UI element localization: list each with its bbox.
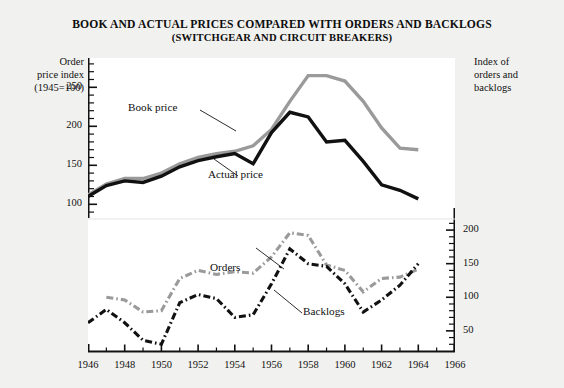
- series-label-book-price: Book price: [128, 101, 177, 113]
- leader-book-price: [200, 110, 236, 131]
- x-tick-label-1958: 1958: [288, 359, 328, 370]
- x-tick-label-1960: 1960: [325, 359, 365, 370]
- x-tick-label-1954: 1954: [215, 359, 255, 370]
- right-axis-caption-line-1: Index of: [474, 55, 562, 68]
- x-tick-label-1966: 1966: [435, 359, 475, 370]
- chart-title-block: BOOK AND ACTUAL PRICES COMPARED WITH ORD…: [0, 18, 564, 44]
- x-tick-label-1962: 1962: [362, 359, 402, 370]
- x-tick-label-1950: 1950: [141, 359, 181, 370]
- y-tick-label-left-200: 200: [48, 119, 82, 130]
- series-line-actual-price: [88, 112, 418, 199]
- series-label-backlogs: Backlogs: [303, 305, 345, 317]
- x-tick-label-1946: 1946: [68, 359, 108, 370]
- left-axis-caption-line-1: Order: [6, 55, 84, 68]
- right-axis-caption: Index of orders and backlogs: [474, 55, 562, 94]
- chart-title-line-2: (SWITCHGEAR AND CIRCUIT BREAKERS): [0, 32, 564, 45]
- left-axis-caption-line-2: price index: [6, 68, 84, 81]
- y-tick-label-right-150: 150: [463, 257, 497, 268]
- y-tick-label-left-100: 100: [48, 197, 82, 208]
- y-tick-label-left-150: 150: [48, 158, 82, 169]
- y-tick-label-right-50: 50: [463, 324, 497, 335]
- leader-backlogs: [274, 290, 302, 313]
- x-tick-label-1956: 1956: [252, 359, 292, 370]
- x-tick-label-1952: 1952: [178, 359, 218, 370]
- y-tick-label-right-200: 200: [463, 223, 497, 234]
- series-line-backlogs: [88, 249, 418, 344]
- series-label-actual-price: Actual price: [208, 168, 263, 180]
- series-label-orders: Orders: [210, 261, 240, 273]
- x-tick-label-1948: 1948: [105, 359, 145, 370]
- right-axis-caption-line-3: backlogs: [474, 81, 562, 94]
- x-tick-label-1964: 1964: [398, 359, 438, 370]
- y-tick-label-right-100: 100: [463, 290, 497, 301]
- chart-title-line-1: BOOK AND ACTUAL PRICES COMPARED WITH ORD…: [0, 18, 564, 32]
- chart-figure: BOOK AND ACTUAL PRICES COMPARED WITH ORD…: [0, 0, 564, 388]
- y-tick-label-left-250: 250: [48, 80, 82, 91]
- right-axis-caption-line-2: orders and: [474, 68, 562, 81]
